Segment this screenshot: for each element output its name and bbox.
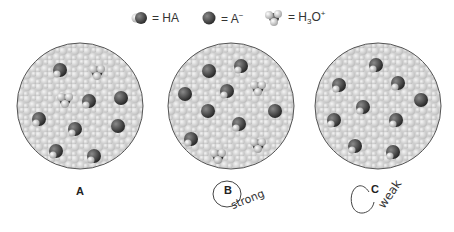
circle-mark-c [351,186,374,213]
